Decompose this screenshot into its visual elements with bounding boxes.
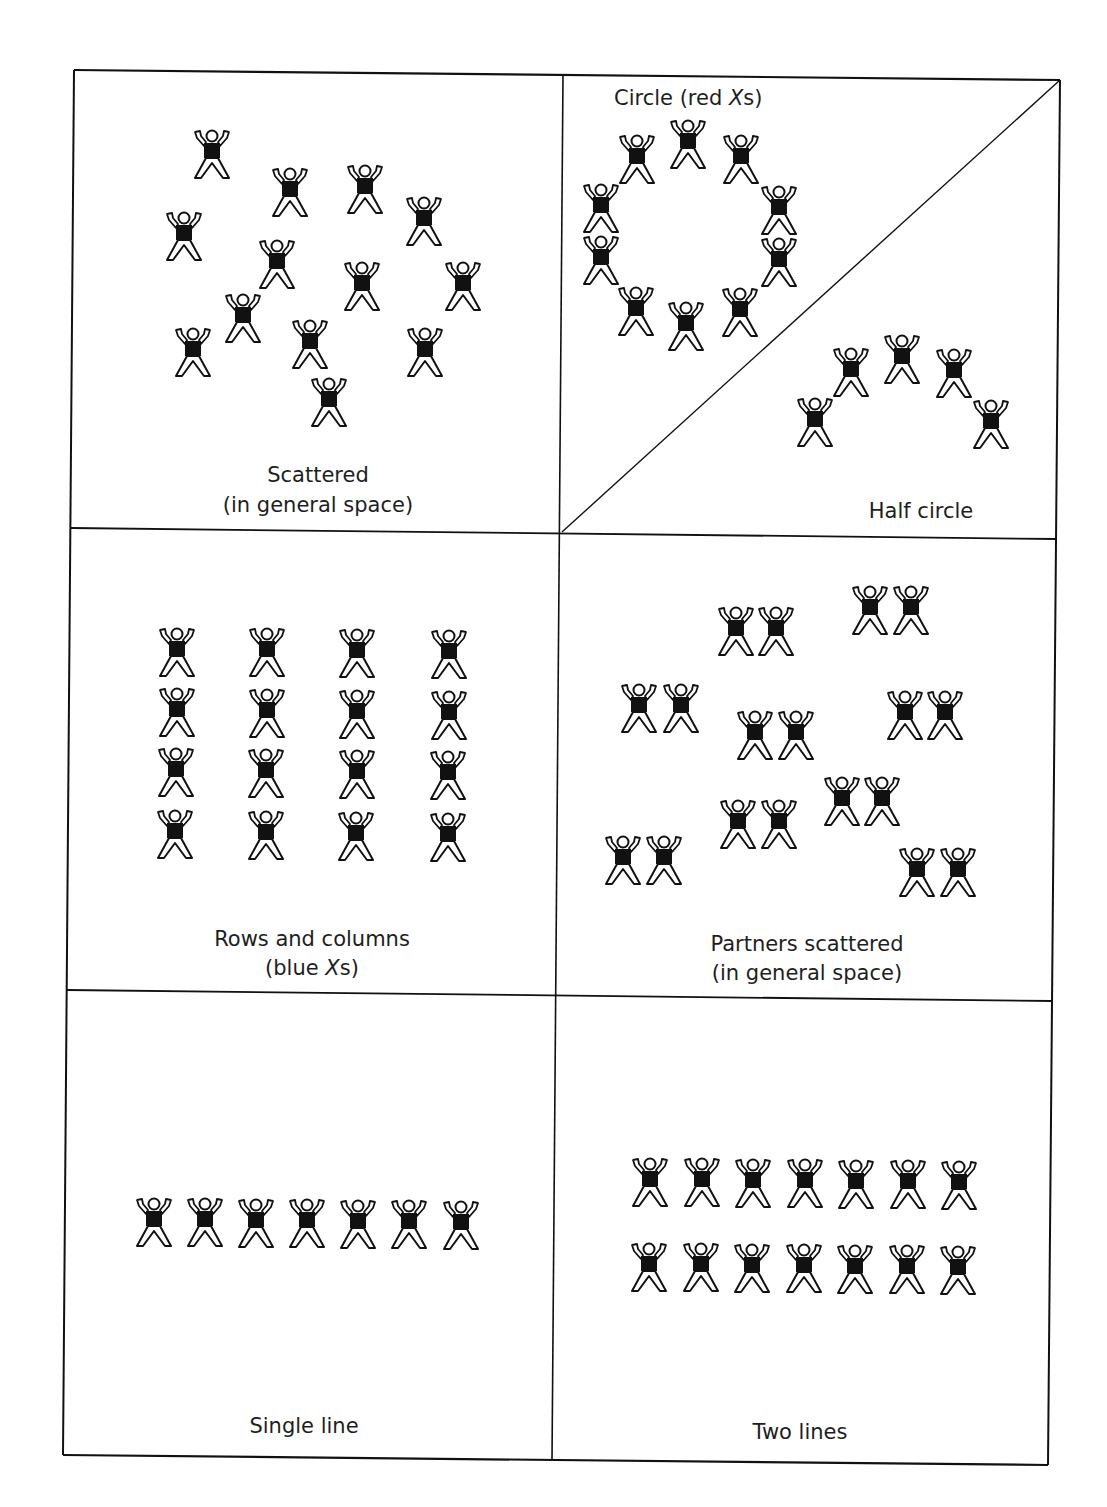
person-icon [762,239,796,287]
person-icon [341,1201,375,1249]
person-icon [779,712,813,760]
caption-two-lines: Two lines [752,1420,848,1444]
caption-scattered-line2: (in general space) [223,493,413,517]
caption-half-circle: Half circle [869,499,973,523]
person-icon [735,1245,769,1293]
person-icon [684,1244,718,1292]
person-icon [619,288,653,336]
outer-border-left [63,70,74,1455]
caption-rows-columns-line2: (blue Xs) [265,956,359,980]
person-icon [891,1161,925,1209]
caption-circle: Circle (red Xs) [614,86,762,110]
cell-circle: Circle (red Xs) [584,86,796,350]
person-icon [408,329,442,377]
caption-scattered-line1: Scattered [267,463,369,487]
person-icon [647,837,681,885]
person-icon [736,1160,770,1208]
cell-single-line: Single line [137,1199,478,1439]
cell-rows-and-columns: Rows and columns (blue Xs) [158,629,466,981]
cell-scattered: Scattered (in general space) [167,131,480,518]
person-icon [137,1199,171,1247]
person-icon [260,241,294,289]
person-icon [622,685,656,733]
person-icon [942,1162,976,1210]
person-icon [432,692,466,740]
formation-diagram: Scattered (in general space) Circle (red… [0,0,1107,1507]
person-icon [762,801,796,849]
person-icon [890,1246,924,1294]
person-icon [738,712,772,760]
person-icon [339,813,373,861]
person-icon [759,608,793,656]
person-icon [941,849,975,897]
person-icon [584,237,618,285]
person-icon [724,136,758,184]
person-icon [633,1159,667,1207]
center-divider [552,75,563,1460]
person-icon [834,349,868,397]
person-icon [249,750,283,798]
person-icon [167,213,201,261]
person-icon [444,1202,478,1250]
person-icon [348,166,382,214]
person-icon [865,778,899,826]
person-icon [928,692,962,740]
person-icon [340,691,374,739]
person-icon [825,778,859,826]
person-icon [159,749,193,797]
person-icon [885,336,919,384]
caption-partners-line2: (in general space) [712,961,902,985]
person-icon [685,1159,719,1207]
person-icon [312,379,346,427]
person-icon [620,136,654,184]
person-icon [432,631,466,679]
person-icon [974,401,1008,449]
person-icon [632,1244,666,1292]
person-icon [446,263,480,311]
person-icon [226,295,260,343]
person-icon [290,1200,324,1248]
outer-border-right [1048,80,1060,1465]
row-divider-2 [67,990,1052,1001]
person-icon [888,692,922,740]
person-icon [407,198,441,246]
person-icon [721,801,755,849]
person-icon [723,289,757,337]
person-icon [158,811,192,859]
person-icon [669,303,703,351]
caption-single-line: Single line [249,1414,358,1438]
person-icon [719,608,753,656]
cell-partners-scattered: Partners scattered (in general space) [606,587,975,986]
person-icon [787,1245,821,1293]
person-icon [340,751,374,799]
person-icon [839,1161,873,1209]
caption-rows-columns-line1: Rows and columns [214,927,410,951]
person-icon [762,187,796,235]
person-icon [188,1199,222,1247]
person-icon [250,690,284,738]
person-icon [894,587,928,635]
cell-half-circle: Half circle [798,336,1008,524]
outer-border-bottom [63,1455,1048,1465]
person-icon [853,587,887,635]
person-icon [900,849,934,897]
person-icon [798,399,832,447]
person-icon [937,350,971,398]
person-icon [671,121,705,169]
person-icon [431,752,465,800]
person-icon [239,1200,273,1248]
person-icon [664,685,698,733]
person-icon [584,185,618,233]
person-icon [160,689,194,737]
person-icon [606,837,640,885]
person-icon [838,1246,872,1294]
person-icon [431,814,465,862]
person-icon [392,1201,426,1249]
caption-partners-line1: Partners scattered [710,932,903,956]
cell-two-lines: Two lines [632,1159,976,1445]
person-icon [195,131,229,179]
person-icon [176,329,210,377]
person-icon [249,812,283,860]
person-icon [250,629,284,677]
outer-border-top [74,70,1060,80]
